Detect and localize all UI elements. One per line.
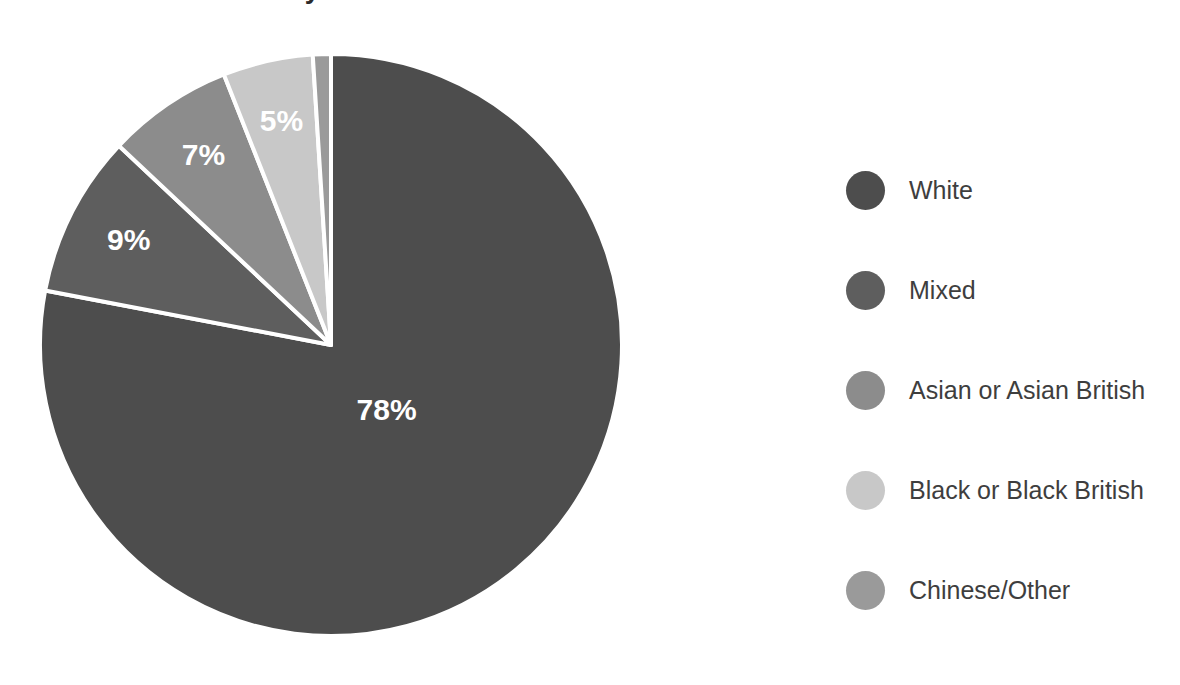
legend-item-label: Black or Black British [909,478,1144,503]
legend-swatch-circle-icon [846,371,885,410]
legend-item-label: Mixed [909,278,976,303]
legend-swatch-circle-icon [846,471,885,510]
pie-chart-svg: 78%9%7%5% [38,52,624,638]
legend-swatch-circle-icon [846,571,885,610]
legend-item[interactable]: Black or Black British [846,440,1176,540]
pie-slice-group [40,54,622,636]
chart-legend: WhiteMixedAsian or Asian BritishBlack or… [846,140,1176,640]
legend-item[interactable]: Asian or Asian British [846,340,1176,440]
legend-item-label: White [909,178,973,203]
chart-page: Ethnicity of Workforce 78%9%7%5% WhiteMi… [0,0,1180,685]
legend-swatch-circle-icon [846,171,885,210]
pie-chart: 78%9%7%5% [38,52,624,638]
legend-item[interactable]: White [846,140,1176,240]
pie-slice-label: 7% [182,138,225,171]
pie-slice-label: 78% [357,393,417,426]
pie-slice-label: 5% [260,104,303,137]
legend-item[interactable]: Chinese/Other [846,540,1176,640]
legend-item[interactable]: Mixed [846,240,1176,340]
legend-item-label: Asian or Asian British [909,378,1145,403]
pie-slice-label: 9% [107,223,150,256]
legend-swatch-circle-icon [846,271,885,310]
page-title: Ethnicity of Workforce [0,0,700,5]
legend-item-label: Chinese/Other [909,578,1070,603]
